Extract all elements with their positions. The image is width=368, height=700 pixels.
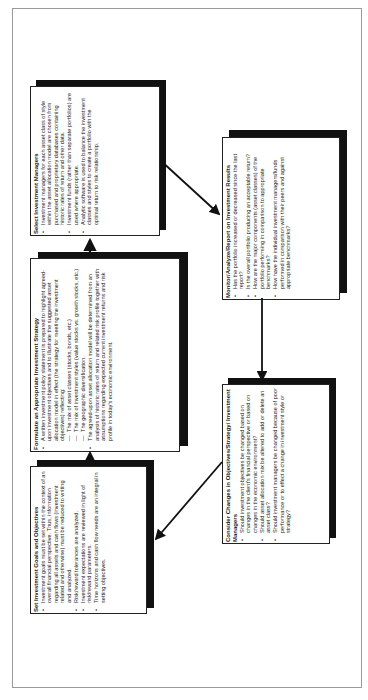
arrow-changes-to-goals bbox=[156, 462, 222, 539]
flow-arrows bbox=[0, 0, 368, 700]
arrow-managers-to-monitor bbox=[160, 160, 219, 214]
